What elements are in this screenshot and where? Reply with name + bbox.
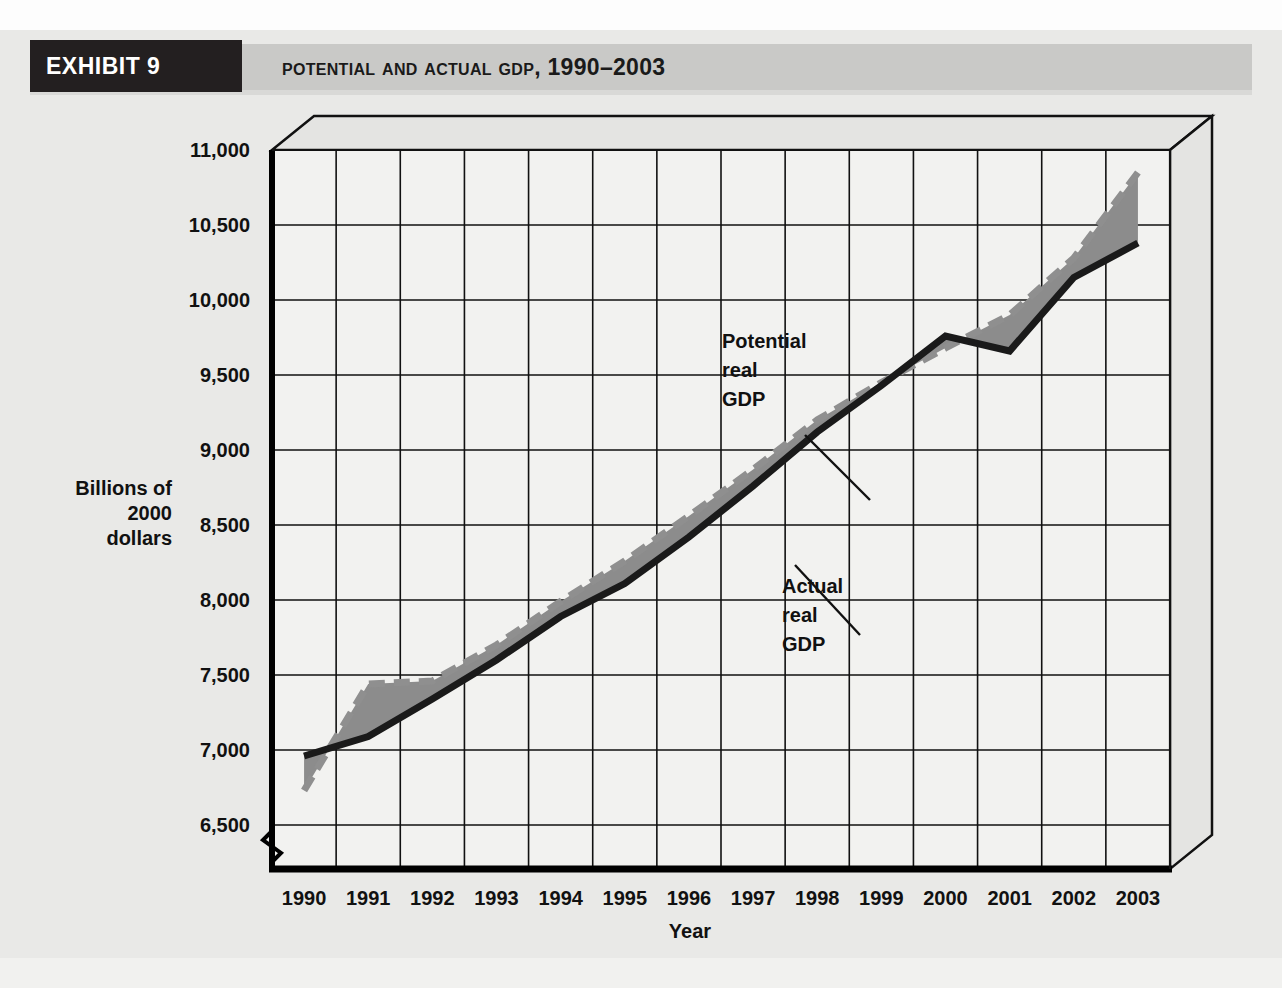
x-tick-label: 1993 [474,887,519,909]
page-top-margin [0,0,1282,34]
x-axis-tick-labels: 1990199119921993199419951996199719981999… [282,887,1160,909]
chart-container: 6,5007,0007,5008,0008,5009,0009,50010,00… [0,95,1282,960]
y-tick-label: 8,000 [200,589,250,611]
y-tick-label: 10,000 [189,289,250,311]
page-bottom-margin [0,958,1282,988]
exhibit-page: EXHIBIT 9 Potential and Actual GDP, 1990… [0,0,1282,988]
x-tick-label: 1994 [538,887,583,909]
y-axis-title-line: Billions of [75,477,172,499]
x-tick-label: 1990 [282,887,327,909]
annotation-label-line: Actual [782,575,843,597]
annotation-label-line: Potential [722,330,806,352]
x-tick-label: 1999 [859,887,904,909]
exhibit-number-badge: EXHIBIT 9 [30,40,242,92]
annotation-label-line: GDP [782,633,825,655]
y-axis-title-line: dollars [106,527,172,549]
y-tick-label: 8,500 [200,514,250,536]
x-tick-label: 1997 [731,887,776,909]
y-axis-tick-labels: 6,5007,0007,5008,0008,5009,0009,50010,00… [189,139,250,836]
x-tick-label: 2002 [1052,887,1097,909]
y-tick-label: 7,500 [200,664,250,686]
annotation-label-line: real [722,359,758,381]
chart-box-right-face [1170,116,1212,869]
x-tick-label: 1998 [795,887,840,909]
x-tick-label: 2003 [1116,887,1161,909]
x-tick-label: 1996 [667,887,712,909]
y-axis-title: Billions of2000dollars [75,477,172,549]
annotation-label-line: GDP [722,388,765,410]
x-tick-label: 2000 [923,887,968,909]
y-axis-title-line: 2000 [128,502,173,524]
x-tick-label: 1995 [603,887,648,909]
annotation-label-line: real [782,604,818,626]
y-tick-label: 11,000 [190,139,250,161]
chart-box-top-face [272,116,1212,150]
y-tick-label: 10,500 [189,214,250,236]
x-axis-title: Year [669,920,711,942]
gdp-line-chart: 6,5007,0007,5008,0008,5009,0009,50010,00… [0,95,1282,960]
y-tick-label: 9,000 [200,439,250,461]
exhibit-title: Potential and Actual GDP, 1990–2003 [282,46,665,88]
y-tick-label: 7,000 [200,739,250,761]
x-tick-label: 1992 [410,887,455,909]
y-tick-label: 6,500 [200,814,250,836]
x-tick-label: 2001 [987,887,1032,909]
y-tick-label: 9,500 [200,364,250,386]
x-tick-label: 1991 [346,887,391,909]
